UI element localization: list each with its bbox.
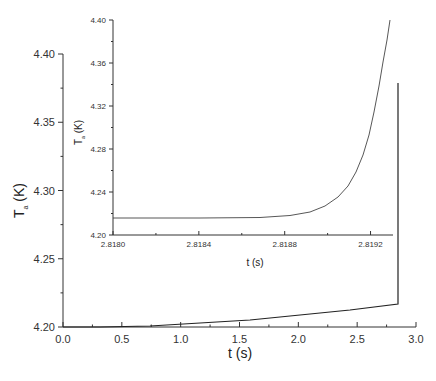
main-y-tick-label: 4.20 bbox=[34, 321, 55, 333]
main-y-tick-label: 4.30 bbox=[34, 185, 55, 197]
main-x-tick-label: 2.5 bbox=[350, 333, 365, 345]
chart-svg: 0.00.51.01.52.02.53.04.204.254.304.354.4… bbox=[0, 0, 436, 381]
inset-y-tick-label: 4.28 bbox=[90, 145, 106, 154]
inset-x-tick-label: 2.8188 bbox=[272, 240, 297, 249]
inset-y-tick-label: 4.24 bbox=[90, 188, 106, 197]
main-x-tick-label: 2.0 bbox=[291, 333, 306, 345]
main-x-tick-label: 1.0 bbox=[173, 333, 188, 345]
main-y-tick-label: 4.25 bbox=[34, 253, 55, 265]
inset-y-tick-label: 4.32 bbox=[90, 102, 106, 111]
main-x-tick-label: 0.5 bbox=[114, 333, 129, 345]
main-y-tick-label: 4.35 bbox=[34, 116, 55, 128]
inset-x-tick-label: 2.8192 bbox=[358, 240, 383, 249]
main-x-tick-label: 3.0 bbox=[408, 333, 423, 345]
inset-x-axis-label: t (s) bbox=[246, 257, 263, 268]
inset-x-tick-label: 2.8184 bbox=[187, 240, 212, 249]
main-x-axis-label: t (s) bbox=[228, 345, 252, 361]
main-y-axis-label: Ta (K) bbox=[11, 183, 29, 218]
main-y-tick-label: 4.40 bbox=[34, 48, 55, 60]
inset-y-axis-label: Ta (K) bbox=[73, 120, 86, 145]
inset-y-tick-label: 4.36 bbox=[90, 59, 106, 68]
main-x-tick-label: 0.0 bbox=[55, 333, 70, 345]
inset-y-tick-label: 4.40 bbox=[90, 16, 106, 25]
chart-root: 0.00.51.01.52.02.53.04.204.254.304.354.4… bbox=[0, 0, 436, 381]
inset-y-tick-label: 4.20 bbox=[90, 231, 106, 240]
inset-x-tick-label: 2.8180 bbox=[101, 240, 126, 249]
main-x-tick-label: 1.5 bbox=[232, 333, 247, 345]
inset-data-line bbox=[113, 20, 390, 218]
